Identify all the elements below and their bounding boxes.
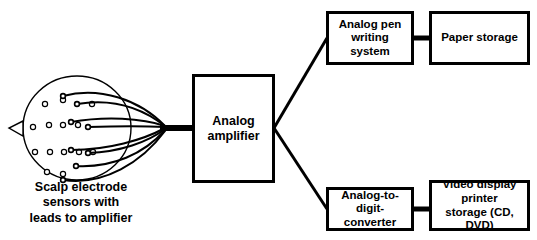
- lead-terminal: [69, 148, 74, 153]
- block-analog-to-digital-converter-label: Analog-to-digit- converter: [329, 189, 411, 230]
- head-outline-group: [9, 76, 131, 180]
- electrode-dot: [44, 169, 49, 174]
- block-analog-to-digital-converter[interactable]: Analog-to-digit- converter: [326, 187, 414, 231]
- connector-amplifier-to-adc: [274, 128, 327, 209]
- lead-terminal: [74, 164, 79, 169]
- electrode-dot: [47, 149, 52, 154]
- electrode-dot: [75, 122, 80, 127]
- lead-terminal: [86, 125, 91, 130]
- lead-wire: [88, 126, 165, 127]
- lead-terminal: [75, 102, 80, 107]
- block-paper-storage[interactable]: Paper storage: [429, 11, 530, 65]
- connector-amplifier-to-pen: [274, 38, 327, 128]
- block-video-display-printer-storage-label: Video display printer storage (CD, DVD): [432, 178, 527, 232]
- electrode-dot: [30, 124, 35, 129]
- lead-terminal: [61, 94, 66, 99]
- diagram-canvas: Analog amplifier Analog pen writing syst…: [0, 0, 537, 240]
- block-analog-pen-writing-system-label: Analog pen writing system: [329, 18, 411, 59]
- scalp-electrode-caption: Scalp electrode sensors with leads to am…: [6, 180, 156, 226]
- block-video-display-printer-storage[interactable]: Video display printer storage (CD, DVD): [429, 180, 530, 231]
- electrode-dot: [60, 122, 65, 127]
- block-analog-amplifier-label: Analog amplifier: [204, 114, 262, 144]
- lead-terminal: [86, 151, 91, 156]
- block-paper-storage-label: Paper storage: [438, 31, 521, 45]
- block-analog-pen-writing-system[interactable]: Analog pen writing system: [326, 11, 414, 65]
- block-analog-amplifier[interactable]: Analog amplifier: [192, 74, 275, 183]
- electrode-dot: [42, 101, 47, 106]
- electrode-dot: [61, 149, 66, 154]
- lead-terminal: [69, 120, 74, 125]
- electrode-dot: [32, 149, 37, 154]
- nose-marker-icon: [9, 121, 23, 136]
- electrode-dot: [60, 171, 65, 176]
- electrode-dot: [46, 122, 51, 127]
